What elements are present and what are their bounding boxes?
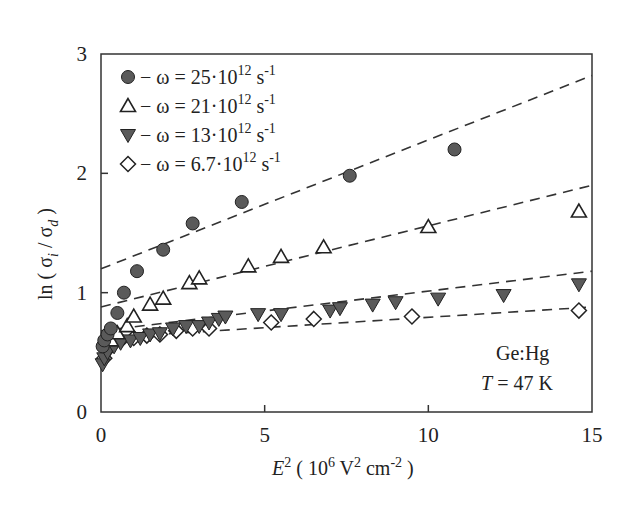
- marker-filled-circle: [157, 243, 170, 256]
- marker-open-triangle: [121, 99, 136, 112]
- axis-ticks: [101, 173, 428, 412]
- marker-filled-circle: [117, 286, 130, 299]
- marker-filled-circle: [235, 195, 248, 208]
- marker-open-triangle: [241, 259, 256, 272]
- legend-entry: − ω = 13·1012 s-1: [140, 121, 276, 146]
- marker-filled-triangle-down: [388, 297, 403, 310]
- data-points: [95, 143, 586, 372]
- x-axis-label: E2 ( 106 V2 cm-2 ): [271, 455, 414, 480]
- legend-entry: − ω = 25·1012 s-1: [140, 63, 276, 88]
- marker-filled-triangle-down: [365, 299, 380, 312]
- y-tick-label: 3: [77, 42, 88, 66]
- marker-filled-circle: [186, 217, 199, 230]
- annotation-temperature: T = 47 K: [481, 372, 553, 394]
- marker-open-triangle: [571, 204, 586, 217]
- legend-entry: − ω = 6.7·1012 s-1: [140, 150, 281, 175]
- marker-open-triangle: [421, 220, 436, 233]
- marker-open-diamond: [404, 309, 419, 324]
- marker-open-diamond: [571, 303, 586, 318]
- marker-open-triangle: [274, 249, 289, 262]
- marker-filled-triangle-down: [251, 309, 266, 322]
- marker-open-triangle: [316, 240, 331, 253]
- marker-filled-triangle-down: [571, 279, 586, 292]
- marker-filled-circle: [131, 265, 144, 278]
- x-tick-label: 15: [582, 423, 603, 447]
- marker-open-diamond: [121, 157, 136, 172]
- marker-open-triangle: [192, 271, 207, 284]
- y-tick-label: 0: [77, 400, 88, 424]
- marker-open-diamond: [264, 315, 279, 330]
- y-axis-label: ln ( σi / σd ): [34, 208, 61, 300]
- marker-filled-triangle-down: [121, 130, 136, 143]
- legend: − ω = 25·1012 s-1− ω = 21·1012 s-1− ω = …: [121, 63, 281, 175]
- marker-filled-circle: [343, 169, 356, 182]
- legend-entry: − ω = 21·1012 s-1: [140, 92, 276, 117]
- marker-open-triangle: [126, 309, 141, 322]
- marker-filled-circle: [122, 71, 135, 84]
- chart: 0510150123 − ω = 25·1012 s-1− ω = 21·101…: [0, 0, 631, 509]
- x-tick-label: 0: [96, 423, 107, 447]
- annotation-material: Ge:Hg: [496, 342, 549, 365]
- marker-filled-circle: [111, 306, 124, 319]
- x-tick-label: 5: [259, 423, 270, 447]
- fit-line: [101, 185, 592, 307]
- marker-filled-triangle-down: [431, 293, 446, 306]
- y-tick-label: 2: [77, 161, 88, 185]
- x-tick-label: 10: [418, 423, 439, 447]
- y-tick-label: 1: [77, 281, 88, 305]
- marker-filled-circle: [104, 322, 117, 335]
- marker-filled-triangle-down: [496, 290, 511, 303]
- marker-filled-circle: [448, 143, 461, 156]
